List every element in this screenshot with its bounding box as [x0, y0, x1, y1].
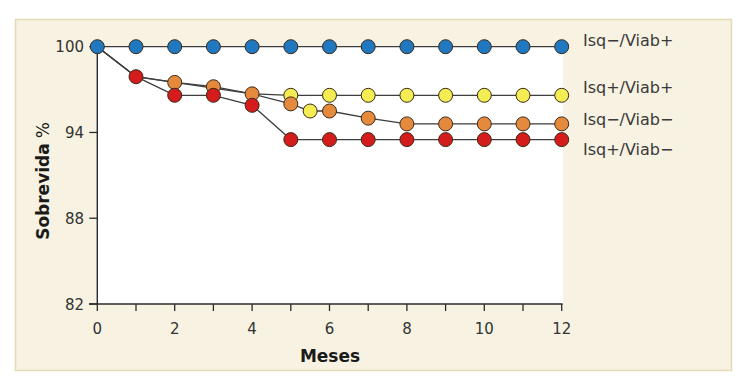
data-point	[400, 88, 414, 102]
data-point	[323, 104, 337, 118]
data-point	[90, 40, 104, 54]
data-point	[168, 75, 182, 89]
x-tick-label: 6	[325, 320, 335, 338]
data-point	[477, 40, 491, 54]
y-tick-label: 94	[65, 124, 84, 142]
data-point	[439, 117, 453, 131]
x-tick-label: 0	[93, 320, 103, 338]
y-tick-label: 88	[65, 210, 84, 228]
data-point	[284, 40, 298, 54]
y-axis-title-text: Sobrevida	[33, 143, 53, 240]
data-point	[323, 88, 337, 102]
data-point	[129, 70, 143, 84]
data-point	[516, 40, 530, 54]
data-point	[400, 40, 414, 54]
data-point	[439, 40, 453, 54]
data-point	[284, 133, 298, 147]
data-point	[400, 133, 414, 147]
data-point	[555, 133, 569, 147]
data-point	[477, 88, 491, 102]
data-point	[555, 40, 569, 54]
x-tick-label: 4	[247, 320, 257, 338]
data-point	[439, 88, 453, 102]
data-point	[516, 133, 530, 147]
x-axis-title: Meses	[300, 346, 360, 366]
data-point	[516, 117, 530, 131]
data-point	[361, 88, 375, 102]
legend-label: Isq+/Viab+	[583, 78, 673, 97]
y-axis-title-unit: %	[33, 122, 53, 138]
x-tick-label: 2	[170, 320, 180, 338]
survival-chart: 024681012828894100 Isq−/Viab+Isq+/Viab+I…	[0, 0, 742, 385]
data-point	[323, 133, 337, 147]
data-point	[361, 111, 375, 125]
data-point	[516, 88, 530, 102]
x-tick-label: 12	[552, 320, 571, 338]
data-point	[400, 117, 414, 131]
data-point	[477, 117, 491, 131]
data-point	[245, 40, 259, 54]
legend-label: Isq−/Viab+	[583, 31, 673, 50]
data-point	[555, 117, 569, 131]
y-tick-label: 100	[55, 38, 84, 56]
data-point	[129, 40, 143, 54]
legend-label: Isq−/Viab−	[583, 110, 673, 129]
y-tick-label: 82	[65, 296, 84, 314]
data-point	[439, 133, 453, 147]
plot-area	[97, 47, 563, 304]
data-point	[206, 40, 220, 54]
data-point	[361, 133, 375, 147]
legend-label: Isq+/Viab−	[583, 140, 673, 159]
x-tick-label: 8	[402, 320, 412, 338]
data-point	[303, 104, 317, 118]
data-point	[284, 97, 298, 111]
data-point	[168, 88, 182, 102]
data-point	[168, 40, 182, 54]
data-point	[323, 40, 337, 54]
data-point	[245, 98, 259, 112]
data-point	[477, 133, 491, 147]
x-tick-label: 10	[475, 320, 494, 338]
data-point	[206, 88, 220, 102]
data-point	[555, 88, 569, 102]
data-point	[361, 40, 375, 54]
